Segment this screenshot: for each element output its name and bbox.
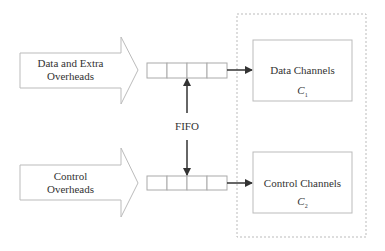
control-channels-symbol: C2: [253, 195, 352, 213]
control-channels-label: Control Channels: [253, 177, 352, 190]
data-channels-symbol: C1: [253, 84, 352, 102]
channel-symbol-c1: C: [297, 84, 304, 96]
control-overheads-line1: Control: [20, 170, 121, 183]
data-overheads-line1: Data and Extra: [20, 57, 121, 70]
data-overheads-label: Data and Extra Overheads: [20, 57, 121, 83]
channel-subscript-1: 1: [305, 92, 308, 98]
data-overheads-line2: Overheads: [20, 70, 121, 83]
channel-subscript-2: 2: [305, 203, 308, 209]
fifo-queue-data: [147, 63, 227, 78]
fifo-queue-control: [147, 176, 227, 190]
data-channels-label: Data Channels: [253, 64, 352, 77]
fifo-label: FIFO: [162, 120, 212, 133]
control-overheads-line2: Overheads: [20, 183, 121, 196]
channel-symbol-c2: C: [297, 195, 304, 207]
control-overheads-label: Control Overheads: [20, 170, 121, 196]
